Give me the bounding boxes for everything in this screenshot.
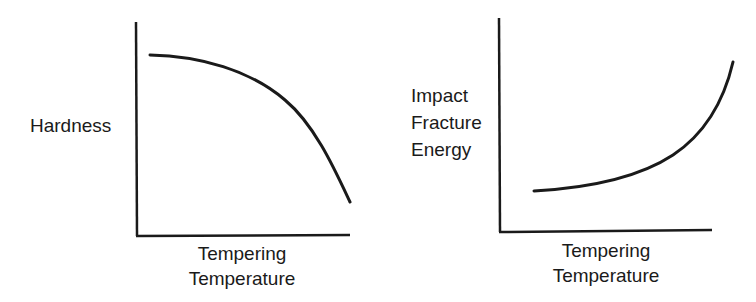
x-axis <box>499 230 712 232</box>
y-axis-label-line2: Fracture <box>411 111 482 134</box>
y-axis-label-line1: Impact <box>411 84 468 107</box>
hardness-chart: Hardness Tempering Temperature <box>0 0 378 302</box>
x-axis-label-line2: Temperature <box>180 267 304 290</box>
x-axis-label-line1: Tempering <box>180 242 304 265</box>
y-axis-label-line3: Energy <box>411 138 471 161</box>
y-axis <box>136 22 137 236</box>
x-axis-label-line1: Tempering <box>544 239 668 262</box>
x-axis-label-line2: Temperature <box>544 264 668 287</box>
impact-energy-curve <box>534 62 733 191</box>
y-axis-label: Hardness <box>30 114 111 137</box>
hardness-curve <box>150 55 350 202</box>
y-axis <box>499 18 500 232</box>
impact-energy-chart: Impact Fracture Energy Tempering Tempera… <box>378 0 756 302</box>
x-axis <box>136 235 350 236</box>
